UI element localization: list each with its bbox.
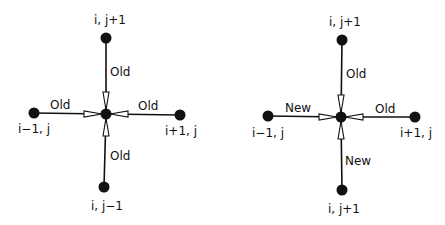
node-center (101, 109, 112, 120)
node-label-top: i, j+1 (329, 15, 361, 29)
arrow-from-right-icon (345, 114, 363, 120)
edge-label-top: Old (110, 65, 130, 79)
node-label-right: i+1, j (165, 124, 197, 138)
node-label-left: i−1, j (18, 122, 50, 136)
edge-label-left: New (285, 101, 311, 115)
edge-label-top: Old (346, 67, 366, 81)
edge-label-right: Old (138, 99, 158, 113)
edge-label-left: Old (50, 98, 70, 112)
node-left (29, 108, 40, 119)
node-bottom (337, 185, 348, 196)
arrow-from-top-icon (103, 92, 109, 110)
edge-label-bottom: Old (110, 149, 130, 163)
node-top (101, 33, 112, 44)
arrow-from-left-icon (319, 114, 337, 120)
arrow-from-bottom-icon (103, 118, 109, 136)
node-top (337, 35, 348, 46)
node-bottom (99, 182, 110, 193)
arrow-from-bottom-icon (338, 121, 344, 139)
node-label-left: i−1, j (252, 126, 284, 140)
node-label-top: i, j+1 (94, 13, 126, 27)
node-label-bottom: i, j−1 (91, 199, 123, 213)
node-right (410, 112, 421, 123)
arrow-from-left-icon (84, 111, 102, 117)
arrow-from-right-icon (110, 111, 128, 117)
stencil-diagrams: i, j+1 i, j−1 i−1, j i+1, j Old Old Old … (0, 0, 445, 225)
node-right (175, 110, 186, 121)
stencil-right-mixed: i, j+1 i, j+1 i−1, j i+1, j Old New New … (252, 15, 432, 216)
node-label-bottom: i, j+1 (328, 202, 360, 216)
stencil-left-all-old: i, j+1 i, j−1 i−1, j i+1, j Old Old Old … (18, 13, 197, 213)
edge-label-right: Old (375, 102, 395, 116)
node-left (263, 111, 274, 122)
arrow-from-top-icon (338, 95, 344, 113)
node-label-right: i+1, j (400, 126, 432, 140)
node-center (336, 112, 347, 123)
edge-label-bottom: New (345, 154, 371, 168)
